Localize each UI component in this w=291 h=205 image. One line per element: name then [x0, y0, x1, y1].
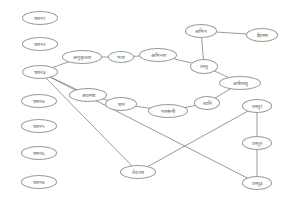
node-label: पराश्रमी [161, 108, 175, 114]
graph-node: अभिनय [139, 48, 177, 62]
graph-node: चयन२ [22, 37, 58, 51]
graph-node: चयन४ [21, 94, 57, 108]
node-label: अनुकृतता [73, 54, 91, 60]
graph-node: प्रान [105, 97, 137, 111]
graph-node: वेदनार [120, 165, 156, 179]
graph-node: वस्तु३ [242, 176, 272, 190]
node-label: वस्तु [200, 63, 208, 69]
node-label: चयन४ [33, 98, 45, 104]
graph-node: पराश्रमी [148, 104, 188, 118]
graph-node: ध्वनि [194, 96, 220, 110]
node-label: ध्वनि [203, 100, 212, 106]
node-label: चयन६ [33, 150, 45, 156]
node-label: अभिनय [151, 52, 166, 58]
node-label: अर्थवस्तु [233, 80, 248, 86]
graph-node: भाव [108, 51, 134, 63]
node-label: वेदनार [132, 169, 144, 175]
graph-node: वस्तु [190, 59, 218, 74]
node-label: चयन७ [33, 179, 45, 185]
node-label: वस्तु२ [252, 140, 263, 146]
graph-node: चयन७ [21, 175, 57, 189]
node-label: ईहसम [257, 32, 268, 38]
graph-node: अवस्था [69, 88, 107, 102]
graph-node: चयन६ [21, 146, 57, 160]
node-label: भाव [117, 54, 125, 60]
graph-node: वस्तु२ [242, 136, 272, 150]
node-label: अवस्था [82, 92, 95, 98]
node-label: अभिन [195, 28, 207, 34]
node-label: प्रान [118, 101, 125, 107]
node-label: वस्तु३ [252, 180, 263, 186]
graph-node: अनुकृतता [62, 50, 102, 64]
graph-node: ईहसम [246, 28, 278, 42]
node-label: चयन५ [33, 123, 45, 129]
graph-node: अर्थवस्तु [219, 76, 261, 90]
graph-node: चयन५ [21, 119, 57, 133]
concept-diagram: चयन१चयन२चयन३चयन४चयन५चयन६चयन७अनुकृतताभावअ… [0, 0, 291, 205]
node-label: चयन२ [34, 41, 46, 47]
node-label: चयन३ [34, 69, 46, 75]
node-label: वस्तु१ [252, 103, 263, 109]
graph-node: वस्तु१ [242, 99, 272, 113]
graph-node: चयन३ [22, 65, 58, 79]
graph-node: चयन१ [22, 11, 58, 25]
graph-node: अभिन [185, 24, 217, 38]
node-label: चयन१ [34, 15, 46, 21]
